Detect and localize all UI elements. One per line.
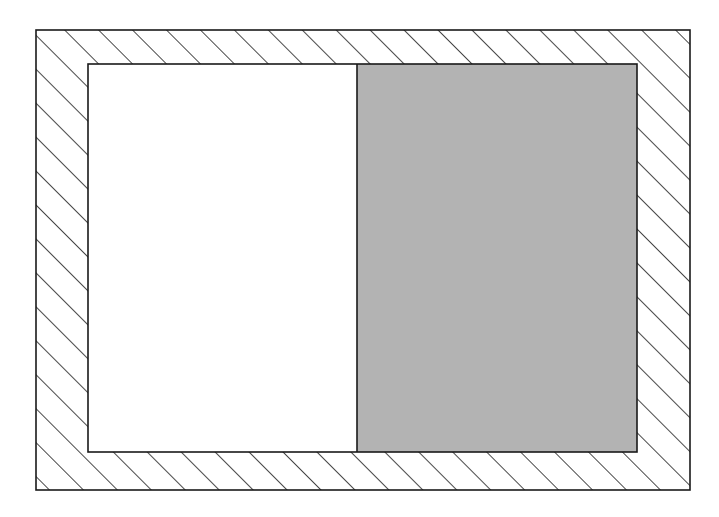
inner-left-white-region	[88, 64, 357, 452]
figure-canvas	[0, 0, 719, 517]
technical-drawing	[0, 0, 719, 517]
inner-right-gray-region	[357, 64, 637, 452]
